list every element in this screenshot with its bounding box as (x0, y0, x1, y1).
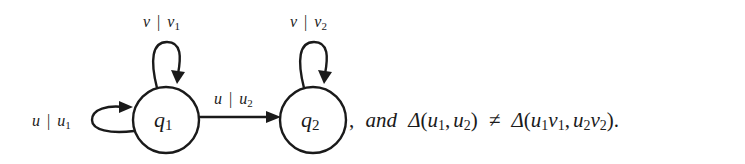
edge-label-q1-top: v | v1 (143, 13, 180, 32)
caption-math: , and Δ(u1,u2) ≠ Δ(u1v1,u2v2). (349, 108, 619, 133)
loop-q1-left-path (92, 107, 134, 132)
edge-label-q1-left: u | u1 (32, 112, 71, 131)
arrowhead-icon (266, 111, 281, 123)
state-q1: q1 (133, 87, 199, 153)
arrowhead-icon (171, 70, 185, 84)
edge-q1-self-top: v | v1 (143, 13, 185, 88)
edge-q2-self-top: v | v2 (290, 13, 332, 88)
state-q2: q2 (280, 87, 346, 153)
edge-label-q1-q2: u | u2 (214, 90, 253, 109)
arrowhead-icon (318, 70, 332, 84)
arrowhead-icon (119, 101, 133, 113)
edge-q1-q2: u | u2 (199, 90, 281, 123)
edge-label-q2-top: v | v2 (290, 13, 327, 32)
edge-q1-self-left: u | u1 (32, 101, 134, 132)
transducer-diagram: v | v1 u | u1 u | u2 v | v2 (0, 0, 745, 164)
